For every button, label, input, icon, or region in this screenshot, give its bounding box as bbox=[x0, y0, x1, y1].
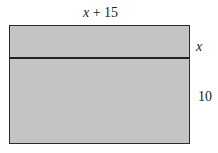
horizontal-divider bbox=[9, 57, 190, 59]
outer-rectangle bbox=[9, 25, 190, 144]
top-section-height-label: x bbox=[196, 40, 202, 54]
width-label-constant: + 15 bbox=[89, 5, 118, 20]
width-label: x + 15 bbox=[83, 6, 118, 20]
bottom-section-height-label: 10 bbox=[198, 90, 212, 104]
